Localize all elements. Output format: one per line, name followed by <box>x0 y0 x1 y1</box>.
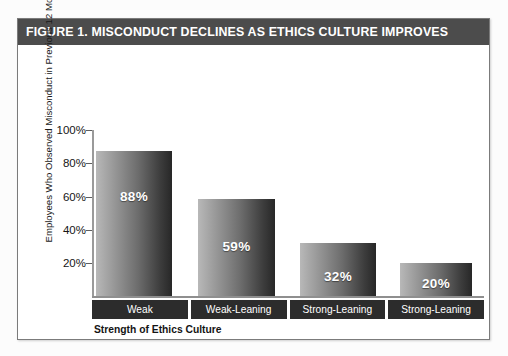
bar-value-label: 20% <box>400 276 472 291</box>
category-label-strong-leaning-2[interactable]: Strong-Leaning <box>388 300 484 319</box>
x-axis-category-labels: Weak Weak-Leaning Strong-Leaning Strong-… <box>92 300 484 319</box>
bar-weak-leaning[interactable]: 59% <box>198 199 275 296</box>
bar-strong-leaning-2[interactable]: 20% <box>400 263 472 296</box>
figure-frame: FIGURE 1. MISCONDUCT DECLINES AS ETHICS … <box>17 18 490 340</box>
bar-strong-leaning-1[interactable]: 32% <box>300 243 376 296</box>
category-label-strong-leaning-1[interactable]: Strong-Leaning <box>290 300 386 319</box>
figure-title-bar: FIGURE 1. MISCONDUCT DECLINES AS ETHICS … <box>18 19 489 45</box>
figure-title: FIGURE 1. MISCONDUCT DECLINES AS ETHICS … <box>18 25 448 39</box>
bar-value-label: 59% <box>198 239 275 254</box>
category-label-weak[interactable]: Weak <box>92 300 188 319</box>
bars-layer: 88% 59% 32% 20% <box>18 45 489 339</box>
category-label-weak-leaning[interactable]: Weak-Leaning <box>191 300 287 319</box>
x-axis-title: Strength of Ethics Culture <box>94 324 222 335</box>
bar-value-label: 32% <box>300 269 376 284</box>
bar-value-label: 88% <box>96 189 172 204</box>
chart-plot-area: Employees Who Observed Misconduct in Pre… <box>18 45 489 339</box>
bar-weak[interactable]: 88% <box>96 151 172 296</box>
